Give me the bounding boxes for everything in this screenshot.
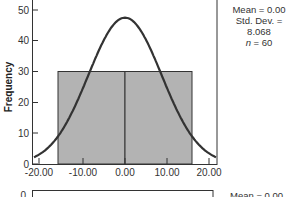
- std-dev-label: Std. Dev. = 8.068: [228, 15, 290, 37]
- partial-chart-below: 0: [20, 190, 213, 197]
- svg-text:10: 10: [18, 128, 30, 139]
- svg-text:20.00: 20.00: [196, 167, 221, 178]
- svg-text:20: 20: [18, 97, 30, 108]
- bar-neg: [58, 72, 125, 165]
- svg-text:40: 40: [18, 35, 30, 46]
- svg-text:10.00: 10.00: [154, 167, 179, 178]
- n-label: n = 60: [228, 37, 290, 48]
- y-axis-label: Frequency: [3, 61, 14, 112]
- svg-text:0: 0: [20, 190, 26, 197]
- bar-pos: [125, 72, 192, 165]
- partial-mean-label: Mean = 0.00: [230, 190, 283, 197]
- svg-text:30: 30: [18, 66, 30, 77]
- stats-annotation: Mean = 0.00 Std. Dev. = 8.068 n = 60: [228, 4, 290, 48]
- y-axis: [33, 10, 39, 164]
- histogram-bars: [58, 72, 192, 165]
- y-tick-labels: 0 10 20 30 40 50: [18, 5, 30, 170]
- svg-text:0.00: 0.00: [115, 167, 135, 178]
- x-tick-labels: -20.00 -10.00 0.00 10.00 20.00: [25, 167, 222, 178]
- mean-label: Mean = 0.00: [228, 4, 290, 15]
- svg-text:-20.00: -20.00: [25, 167, 54, 178]
- svg-text:50: 50: [18, 5, 30, 16]
- svg-text:-10.00: -10.00: [69, 167, 98, 178]
